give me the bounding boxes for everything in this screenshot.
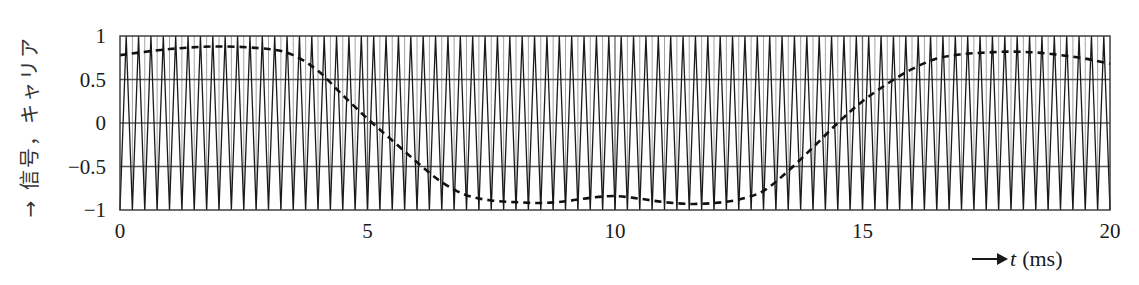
- x-tick-label: 20: [1100, 219, 1121, 243]
- x-tick-label: 10: [605, 219, 626, 243]
- x-tick-label: 15: [852, 219, 873, 243]
- y-tick-label: −1: [84, 198, 106, 222]
- y-tick-label: 0: [96, 111, 107, 135]
- chart-canvas: 10.50−0.5−105101520: [0, 0, 1139, 285]
- y-axis-label: → 信号，キャリア: [8, 22, 48, 232]
- plot-area: [120, 36, 1110, 210]
- y-tick-label: −0.5: [68, 155, 106, 179]
- x-axis-variable: t: [1010, 246, 1016, 271]
- x-axis-label: t(ms): [972, 246, 1062, 272]
- x-axis-unit: (ms): [1022, 246, 1062, 271]
- x-tick-label: 0: [115, 219, 126, 243]
- y-tick-label: 0.5: [80, 68, 106, 92]
- y-tick-label: 1: [96, 24, 107, 48]
- y-axis-label-text: → 信号，キャリア: [14, 36, 43, 217]
- arrow-right-icon: [972, 258, 1006, 260]
- x-tick-label: 5: [362, 219, 373, 243]
